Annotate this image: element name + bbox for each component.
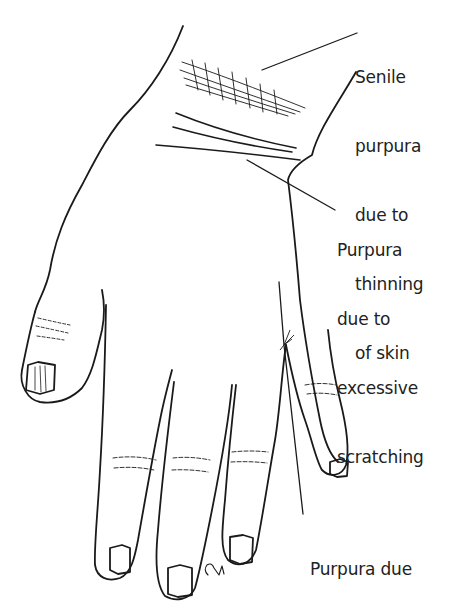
label-drug-reaction-purpura: Purpura due to a drug reaction	[310, 512, 412, 609]
knuckle-creases	[113, 384, 337, 473]
hand-outline-left	[35, 26, 183, 312]
hand-purpura-illustration: Senile purpura due to thinning of skin P…	[0, 0, 452, 609]
thumb-outline	[21, 290, 103, 402]
label-line: excessive	[337, 377, 424, 400]
ring-finger-outline	[222, 345, 286, 564]
index-finger-outline	[95, 305, 172, 579]
label-line: purpura	[355, 135, 423, 158]
middle-finger-outline	[156, 382, 232, 599]
index-nail	[110, 545, 130, 574]
label-line: Senile	[355, 66, 423, 89]
label-line: due to	[337, 308, 424, 331]
scratch-lines	[156, 113, 300, 160]
artist-signature	[205, 564, 224, 575]
label-line: Purpura due	[310, 558, 412, 581]
middle-nail	[168, 565, 192, 597]
label-scratching-purpura: Purpura due to excessive scratching	[337, 193, 424, 515]
label-line: Purpura	[337, 239, 424, 262]
scratching-purpura-spot	[220, 205, 330, 335]
senile-purpura-crosshatch	[180, 60, 305, 116]
label-line: scratching	[337, 446, 424, 469]
